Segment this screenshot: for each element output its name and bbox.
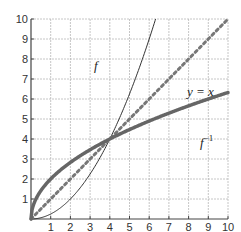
x-tick-label: 6 [146, 221, 152, 232]
y-tick-label: 3 [22, 153, 28, 165]
label-inverse: f−1 [200, 133, 213, 150]
y-tick-label: 10 [16, 13, 28, 25]
x-tick-label: 8 [186, 221, 192, 232]
x-tick-label: 7 [166, 221, 172, 232]
y-tick-label: 4 [22, 133, 28, 145]
x-tick-label: 10 [222, 221, 234, 232]
chart: 1234567891012345678910 f y = x f−1 [0, 0, 241, 232]
x-tick-label: 2 [67, 221, 73, 232]
y-tick-label: 2 [22, 173, 28, 185]
x-tick-label: 5 [126, 221, 132, 232]
y-tick-label: 1 [22, 193, 28, 205]
label-identity: y = x [185, 84, 214, 99]
y-tick-label: 7 [22, 73, 28, 85]
y-tick-label: 5 [22, 113, 28, 125]
y-tick-label: 9 [22, 33, 28, 45]
x-tick-label: 1 [48, 221, 54, 232]
x-tick-label: 9 [205, 221, 211, 232]
x-tick-label: 3 [87, 221, 93, 232]
y-tick-label: 6 [22, 93, 28, 105]
x-tick-label: 4 [107, 221, 113, 232]
y-tick-label: 8 [22, 53, 28, 65]
label-inverse-sup: −1 [204, 133, 214, 143]
label-f: f [94, 58, 100, 73]
